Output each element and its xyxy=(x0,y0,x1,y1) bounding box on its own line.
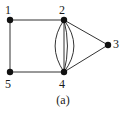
graph-edge-2-4 xyxy=(55,20,64,72)
graph-node-label-1: 1 xyxy=(5,4,11,16)
figure-caption: (a) xyxy=(0,94,126,107)
graph-node-label-3: 3 xyxy=(113,38,119,50)
graph-node-label-5: 5 xyxy=(5,78,11,90)
graph-node-label-4: 4 xyxy=(59,78,65,90)
graph-node-5 xyxy=(7,69,13,75)
node-layer xyxy=(7,17,111,75)
graph-edge-2-4 xyxy=(64,20,68,72)
graph-node-4 xyxy=(61,69,67,75)
graph-figure: 12345 (a) xyxy=(0,0,126,115)
graph-node-3 xyxy=(105,42,111,48)
graph-node-1 xyxy=(7,17,13,23)
graph-node-label-2: 2 xyxy=(59,4,65,16)
edge-layer xyxy=(10,20,108,72)
graph-edge-4-3 xyxy=(64,45,108,72)
graph-edge-2-3 xyxy=(64,20,108,45)
graph-node-2 xyxy=(61,17,67,23)
